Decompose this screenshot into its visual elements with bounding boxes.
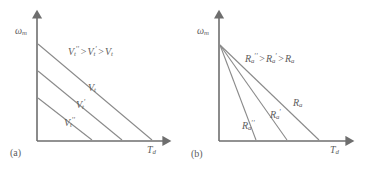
- inequality-label-b: Ra′′>Ra′>Ra: [245, 54, 294, 65]
- panel-b: ωm Td Ra′′>Ra′>Ra Ra Ra′ Ra′′ (b): [183, 0, 366, 171]
- curve-label-b-2: Ra′′: [242, 121, 255, 132]
- curve-label-a-0: Vt: [88, 83, 96, 94]
- panel-a: ωm Td Vt′′>Vt′>Vt Vt Vt′ Vt′′ (a): [0, 0, 183, 171]
- curve-label-a-2: Vt′′: [64, 118, 76, 129]
- x-axis-label-a: Td: [147, 145, 156, 156]
- curve-label-a-1: Vt′: [76, 100, 86, 111]
- curve-label-b-0: Ra: [293, 98, 303, 109]
- y-axis-label-a: ωm: [15, 26, 27, 37]
- x-axis-label-b: Td: [330, 145, 339, 156]
- panel-caption-a: (a): [10, 147, 21, 158]
- curve-label-b-1: Ra′: [270, 110, 281, 121]
- inequality-label-a: Vt′′>Vt′>Vt: [68, 47, 113, 58]
- y-axis-label-b: ωm: [197, 26, 209, 37]
- panel-caption-b: (b): [191, 148, 203, 159]
- figure-container: ωm Td Vt′′>Vt′>Vt Vt Vt′ Vt′′ (a): [0, 0, 366, 171]
